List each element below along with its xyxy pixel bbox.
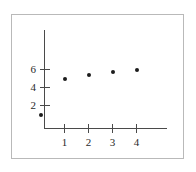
data-point bbox=[111, 70, 115, 74]
data-point bbox=[39, 113, 43, 117]
data-point bbox=[87, 73, 91, 77]
x-tick-label-1: 1 bbox=[57, 137, 72, 148]
x-tick-label-2: 2 bbox=[81, 137, 96, 148]
x-tick-label-3: 3 bbox=[105, 137, 120, 148]
data-point bbox=[63, 77, 67, 81]
y-tick-label-6: 6 bbox=[22, 64, 36, 75]
data-point bbox=[135, 68, 139, 72]
y-tick-label-2: 2 bbox=[22, 100, 36, 111]
figure-container: 6 4 2 1 2 3 4 bbox=[0, 0, 196, 172]
y-tick-label-4: 4 bbox=[22, 82, 36, 93]
x-tick-label-4: 4 bbox=[129, 137, 144, 148]
